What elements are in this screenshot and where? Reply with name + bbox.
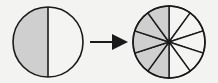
shaded-half: [13, 7, 48, 77]
tenths-circle-figure: [133, 6, 205, 78]
center-point: [167, 40, 171, 44]
unshaded-half: [48, 7, 83, 77]
half-circle-figure: [13, 7, 83, 77]
fraction-diagram: [0, 0, 218, 83]
